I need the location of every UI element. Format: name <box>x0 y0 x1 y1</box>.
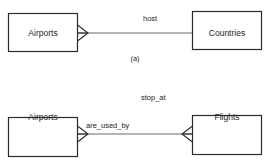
entity-box-airports-b[interactable] <box>9 118 78 157</box>
figure-caption-a: (a) <box>105 54 165 63</box>
diagram-a: Airports Countries host (a) <box>0 0 270 81</box>
entity-label-airports-b: Airports <box>8 112 78 122</box>
diagram-b: Airports Flights stop_at are_used_by <box>0 81 270 162</box>
relationship-label-are-used-by: are_used_by <box>86 121 129 130</box>
entity-label-countries-a: Countries <box>192 28 262 38</box>
entity-label-flights-b: Flights <box>192 112 262 122</box>
relationship-label-stop-at: stop_at <box>141 93 166 102</box>
er-diagram-figure: Airports Countries host (a) Airports Fli… <box>0 0 270 162</box>
entity-label-airports-a: Airports <box>8 28 78 38</box>
relationship-label-host: host <box>143 14 157 23</box>
diagram-a-graphics <box>0 0 270 81</box>
